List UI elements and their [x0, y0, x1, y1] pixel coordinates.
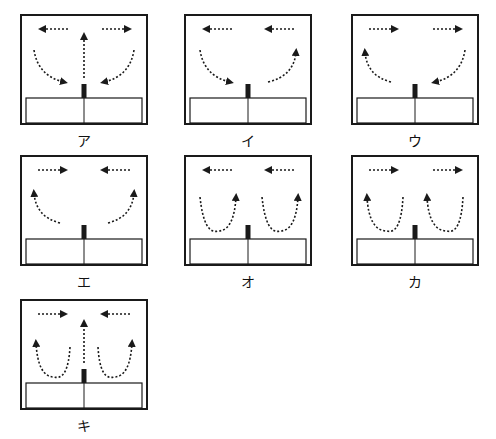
cropped-caption [30, 0, 230, 4]
panel-a: ア [20, 14, 148, 144]
heater-icon [82, 369, 87, 383]
panel-u: ウ [351, 14, 479, 144]
airflow-diagram-o [184, 155, 312, 267]
panel-label-e: エ [20, 271, 148, 291]
panel-label-ka: カ [351, 271, 479, 291]
airflow-diagram-e [20, 155, 148, 267]
airflow-diagram-i [184, 14, 312, 126]
panel-i: イ [184, 14, 312, 144]
panel-label-i: イ [184, 130, 312, 150]
panel-ka: カ [351, 155, 479, 285]
heater-icon [82, 84, 87, 98]
panel-o: オ [184, 155, 312, 285]
heater-icon [413, 84, 418, 98]
heater-icon [82, 225, 87, 239]
airflow-diagram-u [351, 14, 479, 126]
panel-label-a: ア [20, 130, 148, 150]
airflow-diagram-ka [351, 155, 479, 267]
panel-label-ki: キ [20, 415, 148, 435]
panel-label-u: ウ [351, 130, 479, 150]
heater-icon [246, 225, 251, 239]
panel-e: エ [20, 155, 148, 285]
heater-icon [413, 225, 418, 239]
panel-ki: キ [20, 299, 148, 429]
airflow-diagram-a [20, 14, 148, 126]
airflow-diagram-ki [20, 299, 148, 411]
panel-label-o: オ [184, 271, 312, 291]
heater-icon [246, 84, 251, 98]
